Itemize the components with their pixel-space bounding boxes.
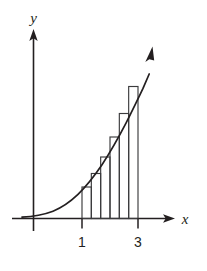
riemann-rect-3 — [101, 157, 110, 219]
x-tick-label-3: 3 — [134, 234, 142, 250]
riemann-rect-1 — [82, 187, 91, 219]
curve-arrowhead — [145, 47, 154, 63]
curve-line — [22, 74, 149, 217]
riemann-sum-figure: 1 3 y x — [0, 0, 207, 271]
figure-canvas: 1 3 y x — [0, 0, 207, 271]
x-tick-marks — [82, 219, 138, 229]
vertical-axis — [29, 29, 37, 231]
x-tick-label-1: 1 — [78, 234, 86, 250]
riemann-rect-5 — [119, 114, 128, 219]
x-axis-label: x — [181, 211, 189, 227]
riemann-rect-2 — [91, 174, 100, 219]
y-axis-label: y — [28, 10, 37, 26]
function-curve — [22, 47, 154, 218]
riemann-rect-6 — [129, 87, 138, 219]
